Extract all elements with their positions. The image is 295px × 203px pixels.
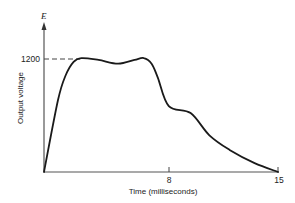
x-axis-title: Time (milliseconds) bbox=[129, 187, 198, 196]
x-tick-label-15: 15 bbox=[274, 175, 284, 185]
y-axis-arrow-icon bbox=[42, 22, 47, 30]
y-tick-label-1200: 1200 bbox=[21, 54, 40, 64]
y-symbol-label: E bbox=[40, 11, 47, 21]
x-tick-label-8: 8 bbox=[167, 175, 172, 185]
voltage-curve bbox=[44, 58, 278, 172]
y-axis-title: Output voltage bbox=[16, 71, 25, 124]
chart: E 1200 8 15 Time (milliseconds) Output v… bbox=[0, 0, 295, 203]
